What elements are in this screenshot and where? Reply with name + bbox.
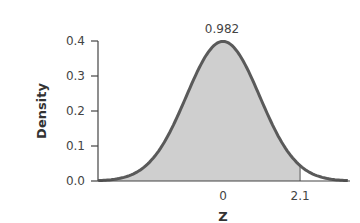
x-axis-title: Z [218,209,227,223]
plot-area [98,41,348,181]
x-tick-label: 0 [219,189,227,203]
chart: 0.00.10.20.30.4 02.1 0.982 Density Z [0,0,360,223]
shaded-area [98,41,300,181]
y-tick-label: 0.3 [66,69,85,83]
x-tick-label: 2.1 [291,189,310,203]
y-tick-label: 0.2 [66,104,85,118]
y-tick-label: 0.1 [66,139,85,153]
x-ticks: 02.1 [219,189,309,203]
area-annotation: 0.982 [205,22,239,36]
y-axis-title: Density [34,83,49,139]
y-tick-label: 0.0 [66,174,85,188]
y-ticks: 0.00.10.20.30.4 [66,34,98,188]
y-tick-label: 0.4 [66,34,85,48]
